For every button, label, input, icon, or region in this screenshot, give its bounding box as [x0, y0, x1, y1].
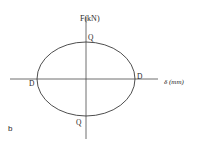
point-label-d-left: D — [29, 79, 35, 88]
y-axis-label: F(kN) — [80, 14, 100, 23]
panel-label: b — [8, 124, 13, 133]
point-label-q-top: Q — [88, 33, 94, 42]
point-label-d-right: D — [137, 72, 143, 81]
hysteresis-diagram: F(kN) δ (mm) Q Q D D b — [0, 0, 200, 144]
point-label-q-bottom: Q — [76, 118, 82, 127]
x-axis-label: δ (mm) — [164, 78, 184, 86]
